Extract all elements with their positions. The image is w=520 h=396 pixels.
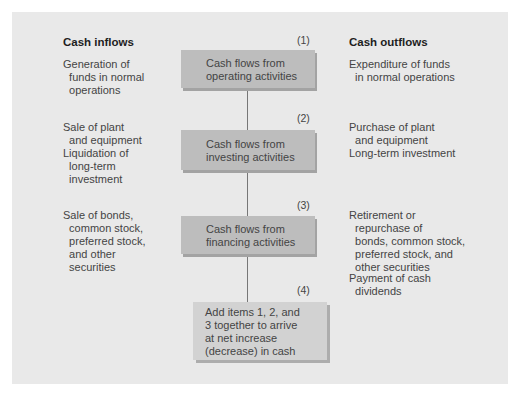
operating-activities-box: Cash flows from operating activities <box>181 50 315 88</box>
step-number-3: (3) <box>297 199 310 211</box>
outflow-item-dividends: Payment of cash dividends <box>349 272 431 298</box>
outflow-item-operations: Expenditure of funds in normal operation… <box>349 58 455 84</box>
inflows-heading: Cash inflows <box>63 36 134 48</box>
inflow-item-sale-plant: Sale of plant and equipment <box>63 121 142 147</box>
net-increase-box: Add items 1, 2, and 3 together to arrive… <box>193 302 327 360</box>
inflow-item-liquidation: Liquidation of long-term investment <box>63 147 128 186</box>
outflow-item-retirement: Retirement or repurchase of bonds, commo… <box>349 209 465 274</box>
step-number-4: (4) <box>297 284 310 296</box>
financing-activities-box: Cash flows from financing activities <box>181 216 315 254</box>
net-increase-label: Add items 1, 2, and 3 together to arrive… <box>205 306 300 358</box>
operating-activities-label: Cash flows from operating activities <box>206 57 297 83</box>
connector-line-1-2 <box>247 88 248 130</box>
connector-line-3-4 <box>247 254 248 302</box>
connector-line-2-3 <box>247 170 248 216</box>
financing-activities-label: Cash flows from financing activities <box>206 223 295 249</box>
outflow-item-long-term-investment: Long-term investment <box>349 147 455 160</box>
step-number-1: (1) <box>297 34 310 46</box>
inflow-item-operations: Generation of funds in normal operations <box>63 58 144 97</box>
inflow-item-sale-securities: Sale of bonds, common stock, preferred s… <box>63 209 146 274</box>
outflow-item-purchase-plant: Purchase of plant and equipment <box>349 121 435 147</box>
step-number-2: (2) <box>297 112 310 124</box>
investing-activities-label: Cash flows from investing activities <box>206 138 295 164</box>
outflows-heading: Cash outflows <box>349 36 428 48</box>
investing-activities-box: Cash flows from investing activities <box>181 130 315 170</box>
